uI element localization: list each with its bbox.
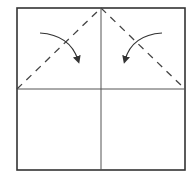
fold-diagram-canvas xyxy=(0,0,192,184)
left-fold-arrow-icon xyxy=(40,33,78,60)
left-valley-fold xyxy=(17,8,101,89)
origami-diagram xyxy=(0,0,192,184)
crease-lines xyxy=(17,8,185,170)
right-valley-fold xyxy=(101,8,185,89)
